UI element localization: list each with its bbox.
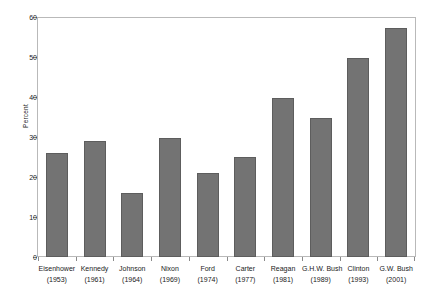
x-tick-label: Johnson(1964) xyxy=(113,264,151,285)
x-tick-label-name: Nixon xyxy=(151,264,189,275)
x-tick-mark xyxy=(414,257,415,261)
bar xyxy=(84,141,106,257)
x-tick-label: Carter(1977) xyxy=(227,264,265,285)
bars-layer xyxy=(38,18,415,257)
x-tick-mark xyxy=(377,257,378,261)
bar xyxy=(272,98,294,257)
x-tick-label-name: G.H.W. Bush xyxy=(302,264,340,275)
x-tick-mark xyxy=(302,257,303,261)
y-axis-ticks: 0102030405060 xyxy=(0,0,37,297)
x-tick-label-year: (1977) xyxy=(227,275,265,286)
x-axis-labels: Eisenhower(1953)Kennedy(1961)Johnson(196… xyxy=(38,264,415,294)
x-tick-label-year: (1961) xyxy=(76,275,114,286)
x-tick-label-name: Kennedy xyxy=(76,264,114,275)
bar xyxy=(121,193,143,257)
x-tick-label-year: (1953) xyxy=(38,275,76,286)
y-tick-label: 40 xyxy=(7,94,37,101)
y-tick-label: 50 xyxy=(7,54,37,61)
x-tick-label: G.W. Bush(2001) xyxy=(377,264,415,285)
x-tick-mark xyxy=(76,257,77,261)
x-tick-label-name: Eisenhower xyxy=(38,264,76,275)
x-tick-mark xyxy=(151,257,152,261)
x-tick-mark xyxy=(38,257,39,261)
x-tick-label-year: (1964) xyxy=(113,275,151,286)
x-tick-mark xyxy=(189,257,190,261)
x-tick-label-year: (1969) xyxy=(151,275,189,286)
x-tick-label-name: Carter xyxy=(227,264,265,275)
bar xyxy=(46,153,68,257)
x-tick-label-name: Johnson xyxy=(113,264,151,275)
y-tick-label: 60 xyxy=(7,14,37,21)
x-tick-label-year: (1974) xyxy=(189,275,227,286)
x-tick-label-year: (1993) xyxy=(340,275,378,286)
x-tick-label-name: Clinton xyxy=(340,264,378,275)
y-tick-label: 0 xyxy=(7,254,37,261)
x-tick-label: Kennedy(1961) xyxy=(76,264,114,285)
x-tick-label: G.H.W. Bush(1989) xyxy=(302,264,340,285)
x-tick-label: Nixon(1969) xyxy=(151,264,189,285)
bar-chart-figure: Percent 0102030405060 Eisenhower(1953)Ke… xyxy=(0,0,426,297)
x-tick-label-year: (1989) xyxy=(302,275,340,286)
x-tick-label-name: Reagan xyxy=(264,264,302,275)
bar xyxy=(347,58,369,257)
bar xyxy=(385,28,407,257)
bar xyxy=(310,118,332,257)
x-tick-label: Eisenhower(1953) xyxy=(38,264,76,285)
x-tick-label-year: (2001) xyxy=(377,275,415,286)
y-tick-label: 10 xyxy=(7,214,37,221)
bar xyxy=(234,157,256,257)
bar xyxy=(197,173,219,257)
x-tick-label: Reagan(1981) xyxy=(264,264,302,285)
bar xyxy=(159,138,181,258)
y-tick-label: 20 xyxy=(7,174,37,181)
x-tick-mark xyxy=(340,257,341,261)
x-tick-mark xyxy=(227,257,228,261)
x-tick-label-name: G.W. Bush xyxy=(377,264,415,275)
x-tick-mark xyxy=(264,257,265,261)
x-axis-ticks xyxy=(38,257,415,262)
y-tick-label: 30 xyxy=(7,134,37,141)
x-tick-label-year: (1981) xyxy=(264,275,302,286)
x-tick-label: Ford(1974) xyxy=(189,264,227,285)
x-tick-mark xyxy=(113,257,114,261)
x-tick-label: Clinton(1993) xyxy=(340,264,378,285)
x-tick-label-name: Ford xyxy=(189,264,227,275)
